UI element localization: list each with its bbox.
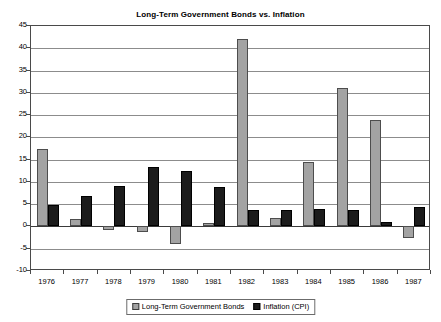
gridline xyxy=(31,71,429,72)
gridline xyxy=(31,93,429,94)
y-axis-tick-label: 40 xyxy=(3,43,27,51)
y-axis-tick-label: 35 xyxy=(3,66,27,74)
y-axis-tick-mark xyxy=(26,136,30,137)
bar-cpi-1984 xyxy=(314,209,325,226)
x-axis-tick-label: 1980 xyxy=(163,277,196,286)
bar-cpi-1987 xyxy=(414,207,425,227)
x-axis-tick-mark xyxy=(430,270,431,274)
x-axis-tick-label: 1982 xyxy=(230,277,263,286)
chart-container: Long-Term Government Bonds vs. Inflation… xyxy=(0,0,441,322)
x-axis-tick-mark xyxy=(330,270,331,274)
y-axis-tick-mark xyxy=(26,203,30,204)
y-axis-tick-mark xyxy=(26,181,30,182)
bar-cpi-1978 xyxy=(114,186,125,226)
x-axis-tick-mark xyxy=(230,270,231,274)
chart-title: Long-Term Government Bonds vs. Inflation xyxy=(0,10,441,19)
bar-bonds-1983 xyxy=(270,218,281,226)
bar-cpi-1976 xyxy=(48,205,59,226)
bar-bonds-1985 xyxy=(337,88,348,226)
bar-cpi-1979 xyxy=(148,167,159,226)
bar-cpi-1985 xyxy=(348,210,359,227)
bar-bonds-1987 xyxy=(403,226,414,238)
gridline xyxy=(31,48,429,49)
x-axis-tick-label: 1985 xyxy=(330,277,363,286)
y-axis-tick-mark xyxy=(26,25,30,26)
y-axis-tick-label: 15 xyxy=(3,155,27,163)
bar-cpi-1977 xyxy=(81,196,92,226)
y-axis-tick-mark xyxy=(26,92,30,93)
x-axis-tick-label: 1984 xyxy=(297,277,330,286)
gridline xyxy=(31,249,429,250)
y-axis-tick-mark xyxy=(26,114,30,115)
y-axis-tick-label: -5 xyxy=(3,244,27,252)
legend-label: Inflation (CPI) xyxy=(263,302,309,311)
y-axis-tick-label: 0 xyxy=(3,221,27,229)
bar-cpi-1982 xyxy=(248,210,259,227)
legend-label: Long-Term Government Bonds xyxy=(142,302,245,311)
y-axis-tick-mark xyxy=(26,159,30,160)
bar-bonds-1979 xyxy=(137,226,148,231)
x-axis-tick-label: 1981 xyxy=(197,277,230,286)
bar-cpi-1980 xyxy=(181,171,192,226)
plot-area xyxy=(30,25,430,270)
x-axis-tick-mark xyxy=(197,270,198,274)
x-axis-tick-mark xyxy=(397,270,398,274)
x-axis-tick-label: 1983 xyxy=(263,277,296,286)
x-axis-tick-label: 1977 xyxy=(63,277,96,286)
bar-bonds-1976 xyxy=(37,149,48,227)
gridline xyxy=(31,115,429,116)
y-axis-tick-mark xyxy=(26,47,30,48)
x-axis-tick-mark xyxy=(363,270,364,274)
x-axis-tick-label: 1978 xyxy=(97,277,130,286)
x-axis-tick-mark xyxy=(130,270,131,274)
y-axis-tick-label: 10 xyxy=(3,177,27,185)
x-axis-tick-label: 1979 xyxy=(130,277,163,286)
bar-bonds-1984 xyxy=(303,162,314,227)
legend-entry-cpi[interactable]: Inflation (CPI) xyxy=(253,302,309,311)
bar-cpi-1983 xyxy=(281,210,292,227)
x-axis-tick-mark xyxy=(63,270,64,274)
bar-bonds-1978 xyxy=(103,226,114,229)
y-axis-tick-label: 30 xyxy=(3,88,27,96)
x-axis-tick-label: 1976 xyxy=(30,277,63,286)
x-axis-tick-mark xyxy=(30,270,31,274)
y-axis-tick-mark xyxy=(26,248,30,249)
y-axis-tick-mark xyxy=(26,70,30,71)
x-axis-tick-mark xyxy=(163,270,164,274)
x-axis-tick-label: 1987 xyxy=(397,277,430,286)
y-axis-tick-mark xyxy=(26,225,30,226)
x-axis-tick-label: 1986 xyxy=(363,277,396,286)
bar-bonds-1977 xyxy=(70,219,81,227)
legend-entry-bonds[interactable]: Long-Term Government Bonds xyxy=(132,302,245,311)
bar-bonds-1982 xyxy=(237,39,248,226)
y-axis-tick-label: -10 xyxy=(3,266,27,274)
y-axis-tick-label: 45 xyxy=(3,21,27,29)
bar-bonds-1981 xyxy=(203,223,214,226)
x-axis-tick-mark xyxy=(263,270,264,274)
y-axis-tick-label: 20 xyxy=(3,132,27,140)
legend-swatch-icon xyxy=(132,303,139,310)
y-axis-tick-label: 5 xyxy=(3,199,27,207)
y-axis-tick-label: 25 xyxy=(3,110,27,118)
bar-cpi-1986 xyxy=(381,222,392,227)
legend-swatch-icon xyxy=(253,303,260,310)
bar-cpi-1981 xyxy=(214,187,225,227)
bar-bonds-1980 xyxy=(170,226,181,243)
bar-bonds-1986 xyxy=(370,120,381,227)
x-axis-tick-mark xyxy=(97,270,98,274)
chart-legend: Long-Term Government BondsInflation (CPI… xyxy=(126,299,315,315)
x-axis-tick-mark xyxy=(297,270,298,274)
